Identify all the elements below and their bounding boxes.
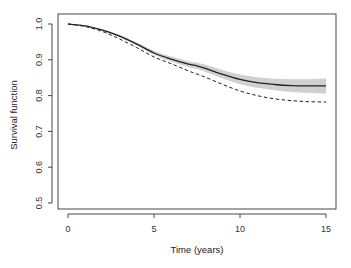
- y-axis: 0.50.60.70.80.91.0: [34, 18, 52, 210]
- confidence-band: [68, 24, 326, 94]
- y-axis-title: Survival function: [8, 80, 19, 150]
- y-tick-label: 0.7: [34, 125, 44, 138]
- survival-chart: 051015 0.50.60.70.80.91.0 Time (years) S…: [0, 0, 351, 268]
- solid-survival-line: [68, 24, 326, 86]
- confidence-band-area: [68, 24, 326, 94]
- x-tick-label: 10: [235, 224, 245, 234]
- x-axis-title: Time (years): [171, 244, 224, 255]
- x-tick-label: 15: [321, 224, 331, 234]
- y-tick-label: 0.8: [34, 89, 44, 102]
- y-tick-label: 0.6: [34, 161, 44, 174]
- y-tick-label: 1.0: [34, 18, 44, 31]
- y-tick-label: 0.9: [34, 54, 44, 67]
- x-axis: 051015: [65, 214, 331, 234]
- plot-area-box: [58, 14, 336, 209]
- x-tick-label: 0: [65, 224, 70, 234]
- y-tick-label: 0.5: [34, 197, 44, 210]
- x-tick-label: 5: [151, 224, 156, 234]
